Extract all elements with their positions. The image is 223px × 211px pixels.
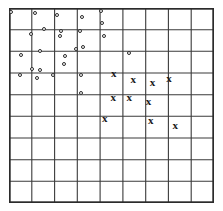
circle-marker <box>81 45 85 49</box>
circle-marker <box>78 29 82 33</box>
cross-marker: x <box>146 96 152 107</box>
circle-marker <box>63 54 67 58</box>
cross-marker: x <box>150 77 156 88</box>
circle-marker <box>59 29 63 33</box>
circle-marker <box>18 73 22 77</box>
cross-marker: x <box>148 114 154 125</box>
circle-marker <box>38 68 42 72</box>
circle-marker <box>79 73 83 77</box>
circle-marker <box>51 73 55 77</box>
circle-marker <box>55 13 59 17</box>
circle-marker <box>102 34 106 38</box>
circle-marker <box>42 27 46 31</box>
cross-marker: x <box>111 91 117 102</box>
circle-marker <box>38 49 42 53</box>
circle-marker <box>9 10 13 14</box>
cross-marker: x <box>130 74 136 85</box>
circle-marker <box>99 9 103 13</box>
markers-layer: xxxxxxxxxx <box>9 8 214 203</box>
circle-marker <box>35 76 39 80</box>
circle-marker <box>62 62 66 66</box>
scatter-grid-figure: xxxxxxxxxx <box>0 0 223 211</box>
circle-marker <box>19 53 23 57</box>
circle-marker <box>30 67 34 71</box>
cross-marker: x <box>166 72 172 83</box>
plot-area: xxxxxxxxxx <box>9 8 214 203</box>
circle-marker <box>58 34 62 38</box>
cross-marker: x <box>127 91 133 102</box>
circle-marker <box>74 47 78 51</box>
circle-marker <box>79 91 83 95</box>
cross-marker: x <box>173 120 179 131</box>
circle-marker <box>100 21 104 25</box>
circle-marker <box>127 51 131 55</box>
circle-marker <box>29 32 33 36</box>
cross-marker: x <box>111 68 117 79</box>
circle-marker <box>80 15 84 19</box>
circle-marker <box>33 11 37 15</box>
cross-marker: x <box>102 113 108 124</box>
